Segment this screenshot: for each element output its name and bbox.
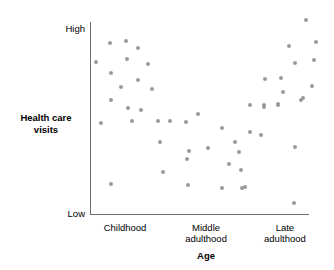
data-point xyxy=(168,119,172,123)
data-point xyxy=(248,103,252,107)
x-axis-title: Age xyxy=(169,250,243,261)
data-point xyxy=(126,106,130,110)
x-axis-category-late-adulthood: Late adulthood xyxy=(248,222,322,244)
x-axis-category-childhood-line1: Childhood xyxy=(88,222,162,233)
data-point xyxy=(156,119,160,123)
data-point xyxy=(248,130,252,134)
data-point xyxy=(299,98,303,102)
x-axis-category-childhood: Childhood xyxy=(88,222,162,233)
data-point xyxy=(158,140,162,144)
data-point xyxy=(206,146,210,150)
data-point xyxy=(237,150,241,154)
data-point xyxy=(186,183,190,187)
data-point xyxy=(220,186,224,190)
data-point xyxy=(287,44,291,48)
data-point xyxy=(312,58,316,62)
y-axis-title-line2: visits xyxy=(6,124,86,136)
x-axis-line xyxy=(90,214,309,215)
data-point xyxy=(240,186,244,190)
data-point xyxy=(99,121,103,125)
y-axis-tick-high: High xyxy=(65,23,85,34)
data-point xyxy=(310,84,314,88)
data-point xyxy=(293,145,297,149)
data-point xyxy=(276,103,280,107)
data-point xyxy=(139,108,143,112)
data-point xyxy=(185,157,189,161)
data-point xyxy=(262,105,266,109)
data-point xyxy=(119,85,123,89)
data-point xyxy=(146,62,150,66)
scatter-chart: High Low Health care visits Childhood Mi… xyxy=(0,0,334,270)
data-point xyxy=(262,103,266,107)
data-point xyxy=(301,96,305,100)
data-point xyxy=(161,170,165,174)
data-point xyxy=(136,46,140,50)
data-point xyxy=(227,162,231,166)
data-point xyxy=(276,102,280,106)
data-point xyxy=(292,201,296,205)
data-point xyxy=(130,119,134,123)
data-point xyxy=(124,39,128,43)
x-axis-category-late-adulthood-line1: Late xyxy=(248,222,322,233)
data-point xyxy=(109,98,113,102)
data-point xyxy=(184,120,188,124)
data-point xyxy=(109,71,113,75)
data-point xyxy=(314,40,318,44)
y-axis-title: Health care visits xyxy=(6,112,86,135)
data-point xyxy=(187,149,191,153)
data-point xyxy=(239,168,243,172)
data-point xyxy=(293,61,297,65)
data-point xyxy=(108,41,112,45)
data-point xyxy=(150,87,154,91)
data-point xyxy=(125,57,129,61)
y-axis-line xyxy=(90,22,91,215)
data-point xyxy=(304,18,308,22)
x-axis-category-late-adulthood-line2: adulthood xyxy=(248,233,322,244)
y-axis-tick-low: Low xyxy=(68,208,85,219)
data-point xyxy=(279,76,283,80)
data-point xyxy=(243,185,247,189)
data-point xyxy=(281,90,285,94)
data-point xyxy=(109,182,113,186)
data-point xyxy=(196,112,200,116)
x-axis-category-middle-adulthood-line1: Middle xyxy=(169,222,243,233)
data-point xyxy=(259,133,263,137)
x-axis-category-middle-adulthood-line2: adulthood xyxy=(169,233,243,244)
y-axis-title-line1: Health care xyxy=(6,112,86,124)
data-point xyxy=(233,140,237,144)
x-axis-category-middle-adulthood: Middle adulthood xyxy=(169,222,243,244)
data-point xyxy=(136,78,140,82)
data-point xyxy=(94,60,98,64)
data-point xyxy=(220,126,224,130)
data-point xyxy=(263,77,267,81)
